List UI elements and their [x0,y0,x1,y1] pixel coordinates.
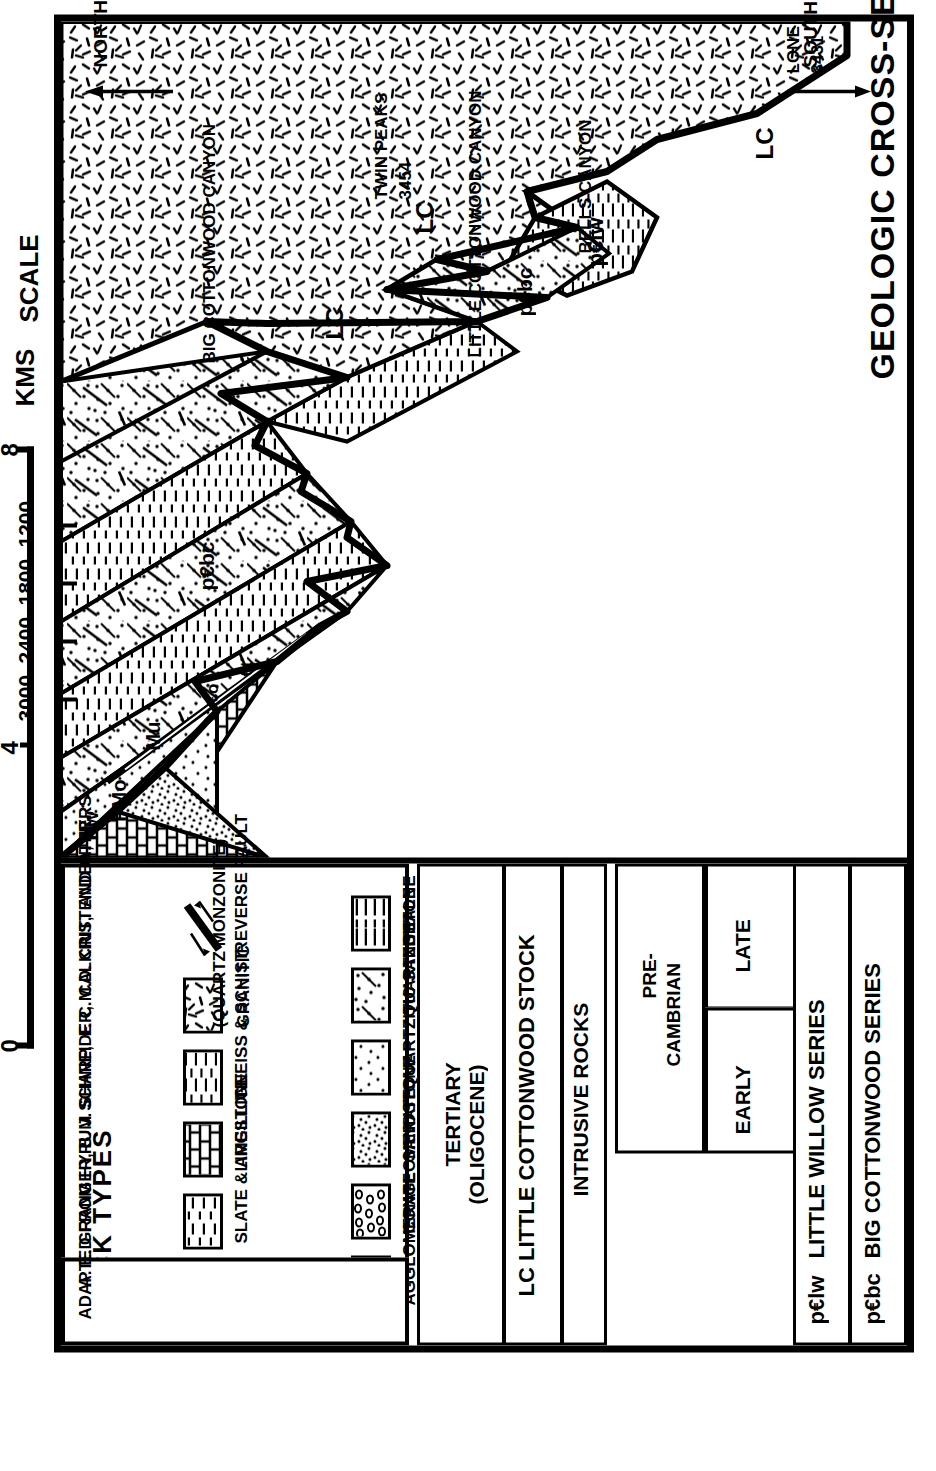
intrusive-rocks-block: INTRUSIVE ROCKS LC LITTLE COTTONWOOD STO… [417,863,607,1345]
unit-cell-little-willow: p€lw LITTLE WILLOW SERIES [793,863,851,1345]
unit-symbol-lc-3: LC [323,307,347,339]
stratigraphic-column: PRE- CAMBRIAN LATE EARLY p€bc BIG COTTON… [615,863,907,1345]
direction-label-north: NORTH [91,0,110,67]
south-arrow-icon [787,83,873,99]
swatch-quartzitic-sandstone [351,1039,391,1095]
swatch-shale [351,895,391,951]
unit-symbol-co: €o [204,683,221,703]
direction-label-south: SOUTH [801,1,820,68]
age-cell-late: LATE [705,863,797,1009]
plate-frame: p€lw LC LC LC p€bc p€bc Mu PMo Pw €t €o … [54,14,914,1352]
age-label-early: EARLY [732,1065,753,1134]
explanation-divider [61,857,907,863]
attribution-box: ADAPTED FROM HYRUM SCHNEIDER, M.D. CRITT… [61,1257,409,1345]
swatch-sandstone [351,1111,391,1167]
unit-symbol-pcbc-2: p€bc [196,541,217,590]
unit-symbol-mu: Mu [143,721,163,750]
swatch-limestone [183,1121,223,1177]
north-arrow-icon [83,83,173,99]
scale-label: SCALE [16,234,42,322]
rotated-plate-stage: p€lw LC LC LC p€bc p€bc Mu PMo Pw €t €o … [0,0,936,1471]
reverse-fault-icon [181,899,225,959]
legend-entry-reverse-fault: REVERSE FAULT [181,899,225,959]
scale-unit-label: KMS [12,348,38,406]
unit-symbol-pmo: PMo [109,779,129,821]
scale-tick-label-4: 4 [0,741,22,754]
peak-label-twin-peaks: TWIN PEAKS [373,92,390,199]
canyon-label-little-cottonwood-canyon: LITTLE COTTONWOOD CANYON [467,90,484,357]
elev-tick-2400 [61,639,77,643]
era-label-precambrian-line2: CAMBRIAN [664,963,683,1066]
age-cell-early: EARLY [705,1007,797,1153]
scale-tick-label-8: 8 [0,443,22,456]
legend-label-shale: SHALE [401,887,418,945]
scale-tick-label-0: 0 [0,1039,22,1052]
canyon-label-big-cottonwood-canyon: BIG COTTONWOOD CANYON [201,123,218,363]
age-label-late: LATE [732,919,753,972]
unit-symbol-ct: €t [238,661,255,676]
swatch-slate-argillite [183,1193,223,1249]
intrusive-rocks-heading: INTRUSIVE ROCKS [570,1002,591,1196]
elev-tick-1800 [61,581,77,585]
era-label-oligocene: (OLIGOCENE) [466,1064,487,1204]
unit-symbol-lc-2: LC [413,201,437,233]
cross-section-panel: p€lw LC LC LC p€bc p€bc Mu PMo Pw €t €o … [61,21,907,857]
attribution-line-2: A. E. GRANGER, B. J. SHARP, F. C. CALKIN… [77,795,94,1287]
unit-symbol-label-pcbc: p€bc [862,1273,884,1324]
scale-bar: SCALE 0 4 8 KMS [0,36,42,1336]
elev-tick-1200 [61,523,77,527]
elev-tick-3000 [61,697,77,701]
intrusive-unit-label-lc: LC LITTLE COTTONWOOD STOCK [516,934,538,1296]
intrusive-era-cell-tertiary: TERTIARY (OLIGOCENE) [417,863,505,1345]
unit-symbol-lc-1: LC [753,127,777,159]
canyon-label-bells-canyon: BELLS CANYON [577,119,594,253]
swatch-conglomerate [351,1183,391,1239]
swatch-gneiss-schist [183,1049,223,1105]
peak-label-twin-peaks-elev: 3454 [397,161,414,199]
unit-cell-big-cottonwood: p€bc BIG COTTONWOOD SERIES [849,863,907,1345]
intrusive-rocks-heading-cell: INTRUSIVE ROCKS [561,863,607,1345]
era-label-precambrian-line1: PRE- [640,953,659,998]
era-cell-precambrian: PRE- CAMBRIAN [615,863,705,1153]
unit-name-little-willow-series: LITTLE WILLOW SERIES [806,999,828,1258]
page-title: GEOLOGIC CROSS-SECTION [863,0,902,379]
unit-symbol-label-pclw: p€lw [806,1275,828,1324]
unit-symbol-pcbc-1: p€bc [514,267,535,316]
swatch-quartzite [351,967,391,1023]
unit-name-big-cottonwood-series: BIG COTTONWOOD SERIES [862,963,884,1258]
era-label-tertiary: TERTIARY [442,1062,463,1166]
unit-little-cottonwood-stock [61,21,847,381]
elevation-axis-line [55,21,61,857]
intrusive-unit-cell-lc: LC LITTLE COTTONWOOD STOCK [503,863,563,1345]
